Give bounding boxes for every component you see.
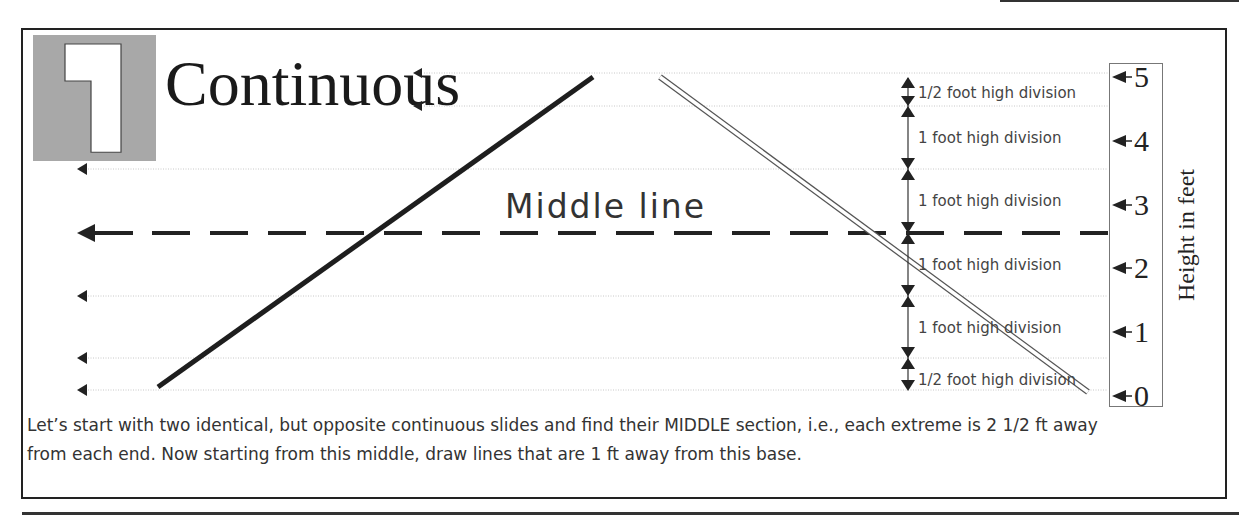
scale-tick: 4 bbox=[1134, 126, 1149, 156]
division-label: 1 foot high division bbox=[918, 258, 1061, 273]
arrow-left-icon bbox=[77, 224, 95, 242]
axis-title: Height in feet bbox=[1173, 169, 1200, 301]
scale-tick: 5 bbox=[1134, 62, 1149, 92]
scale-tick: 0 bbox=[1134, 381, 1149, 411]
caption-text: Let’s start with two identical, but oppo… bbox=[27, 411, 1107, 469]
middle-line-label: Middle line bbox=[505, 190, 706, 223]
scale-tick: 3 bbox=[1134, 190, 1149, 220]
height-scale bbox=[1109, 63, 1163, 407]
division-label: 1 foot high division bbox=[918, 194, 1061, 209]
division-label: 1 foot high division bbox=[918, 131, 1061, 146]
scale-tick: 2 bbox=[1134, 253, 1149, 283]
division-label: 1/2 foot high division bbox=[918, 373, 1076, 388]
division-label: 1/2 foot high division bbox=[918, 86, 1076, 101]
scale-tick: 1 bbox=[1134, 317, 1149, 347]
division-label: 1 foot high division bbox=[918, 321, 1061, 336]
